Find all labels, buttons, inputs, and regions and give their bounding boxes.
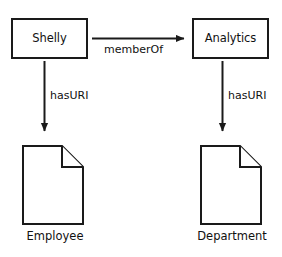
node-shelly-label: Shelly (32, 33, 66, 45)
document-body-shape (23, 146, 83, 224)
node-shelly[interactable]: Shelly (11, 18, 88, 59)
node-analytics-label: Analytics (205, 33, 256, 45)
document-caption-employee: Employee (0, 231, 110, 243)
node-analytics[interactable]: Analytics (192, 18, 269, 59)
document-icon-employee[interactable] (22, 145, 84, 225)
document-fold-corner (240, 146, 261, 167)
document-body-shape (201, 146, 261, 224)
document-icon-department[interactable] (200, 145, 262, 225)
edge-label-has-uri-right: hasURI (228, 90, 266, 101)
diagram-canvas: Shelly Analytics memberOf hasURI hasURI … (0, 0, 282, 257)
edge-label-has-uri-left: hasURI (50, 90, 88, 101)
edge-label-member-of: memberOf (104, 44, 163, 55)
document-caption-department: Department (177, 231, 282, 243)
